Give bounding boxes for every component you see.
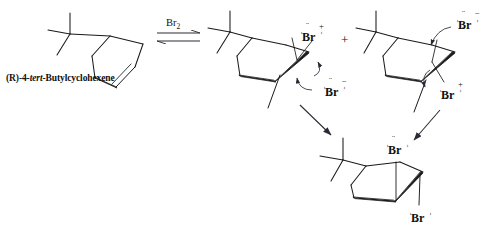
product-structure [320,138,423,205]
reactant-name-italic: tert [30,73,43,83]
bromide-right-lone-pair-bottom: ¨ [462,24,465,34]
reagent-label: Br2 [166,18,180,31]
product-bromine-eq-lone-pair-left: ¨ [404,213,414,216]
arrow-to-product-left [300,105,331,135]
curved-arrow-bromide-attack-right [431,27,451,45]
reactant-name-suffix: -Butylcyclohexene [42,73,114,83]
bromide-left-group: Br − ¨ ¨ ¨ ¨ [325,82,338,100]
bromonium-right-lone-pair-right: ¨ [454,90,464,93]
product-bromine-eq-lone-pair-bottom: ¨ [415,217,418,227]
product-bromine-axial-group: Br ¨ ¨ ¨ [388,140,401,158]
product-bromine-equatorial-group: Br ¨ ¨ ¨ [411,208,424,226]
bromonium-right-charge: + [458,79,463,89]
bromide-left-lone-pair-left: ¨ [318,87,328,90]
curved-arrow-bromonium-left [314,62,320,76]
bromonium-left-charge: + [319,21,324,31]
bromonium-left-lone-pair-right: ¨ [315,32,325,35]
product-bromine-eq-lone-pair-right: ¨ [424,213,434,216]
intermediate-left-structure [208,11,312,108]
bromide-right-lone-pair-left: ¨ [451,20,461,23]
reactant-name-prefix: (R) [6,73,19,83]
bromide-left-charge: − [342,76,347,86]
curved-arrow-bromide-attack-left [297,78,312,90]
product-bromine-axial-lone-pair-right: ¨ [401,145,411,148]
reagent-subscript: 2 [177,22,181,31]
bromonium-right-lone-pair-bottom: ¨ [445,94,448,104]
product-bromine-axial-lone-pair-top: ¨ [392,133,395,143]
bromide-left-lone-pair-bottom: ¨ [329,91,332,101]
bromide-right-lone-pair-top: ¨ [462,8,465,18]
reaction-scheme: (R)-4-tert-Butylcyclohexene Br2 + Br + ¨… [0,0,494,229]
bromonium-left-lone-pair-top: ¨ [306,20,309,30]
bromide-right-charge: − [475,8,480,18]
bromonium-left-group: Br + ¨ ¨ ¨ [302,27,315,45]
reactant-name-label: (R)-4-tert-Butylcyclohexene [6,74,115,84]
equilibrium-arrow [157,33,200,41]
reaction-scheme-svg [0,0,494,229]
bromonium-right-group: Br + ¨ ¨ ¨ [441,85,454,103]
bromide-right-group: Br − ¨ ¨ ¨ ¨ [458,15,471,33]
bromonium-right-lone-pair-left: ¨ [434,90,444,93]
reactant-name-mid: -4- [19,73,30,83]
product-bromine-axial-lone-pair-left: ¨ [381,145,391,148]
plus-separator: + [341,33,348,46]
bromonium-left-lone-pair-left: ¨ [295,32,305,35]
bromide-right-lone-pair-right: ¨ [471,20,481,23]
bromide-left-lone-pair-right: ¨ [338,87,348,90]
arrow-to-product-right [414,110,440,140]
reagent-formula: Br [166,17,177,28]
bromide-left-lone-pair-top: ¨ [329,75,332,85]
